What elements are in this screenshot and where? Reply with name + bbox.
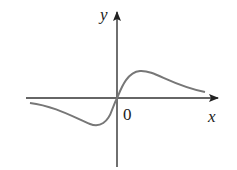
y-axis-label: y	[98, 5, 108, 24]
x-axis-label: x	[207, 107, 216, 126]
graph-canvas: y 0 x	[0, 0, 237, 170]
origin-label: 0	[123, 105, 132, 124]
